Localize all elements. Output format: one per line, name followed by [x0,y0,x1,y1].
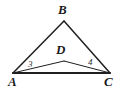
vertex-label-A: A [8,75,17,88]
angle-label-4: 4 [88,58,93,67]
segment-DC [64,61,110,73]
angle-label-3: 3 [28,60,33,69]
vertex-label-B: B [58,3,67,16]
vertex-label-C: C [104,75,113,88]
segment-AD [13,61,64,73]
segment-BC [64,21,110,73]
vertex-label-D: D [56,43,65,56]
geometry-figure: B D A C 3 4 [0,0,125,95]
